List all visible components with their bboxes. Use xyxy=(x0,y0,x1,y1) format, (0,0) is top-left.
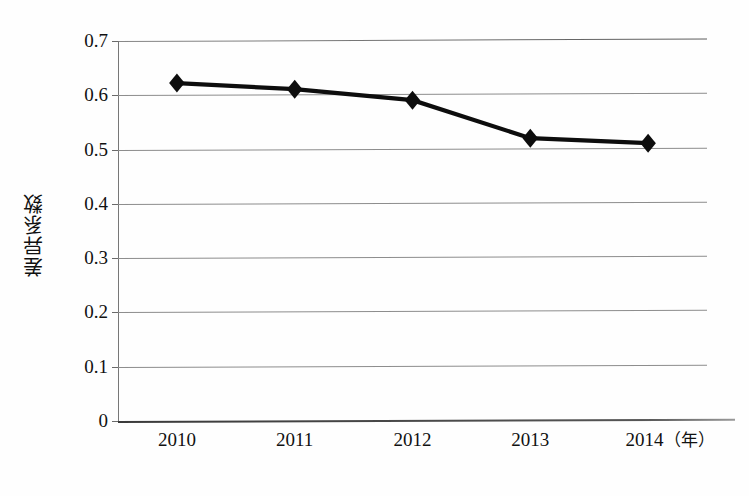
x-tick-label: 2013 xyxy=(511,429,549,451)
x-axis-tick-labels: 20102011201220132014（年） xyxy=(0,429,749,463)
data-point-marker xyxy=(405,91,421,110)
y-tick-label: 0.4 xyxy=(56,194,108,213)
x-axis-unit-label: （年） xyxy=(664,430,715,450)
x-tick-label: 2011 xyxy=(276,429,313,451)
data-point-marker xyxy=(287,80,303,99)
y-tick-label: 0.6 xyxy=(56,85,108,104)
plot-area xyxy=(118,41,707,421)
y-tick-label: 0.3 xyxy=(56,248,108,267)
chart-figure: 差异系数 00.10.20.30.40.50.60.7 201020112012… xyxy=(0,0,749,496)
y-tick-label: 0.7 xyxy=(56,31,108,50)
y-tick-label: 0 xyxy=(56,411,108,430)
x-tick-label: 2014（年） xyxy=(626,429,715,451)
series-line-diamond xyxy=(118,41,707,422)
y-tick-label: 0.1 xyxy=(56,357,108,376)
y-axis-tick-labels: 00.10.20.30.40.50.60.7 xyxy=(50,0,108,496)
y-axis-title: 差异系数 xyxy=(14,150,54,320)
x-tick-label: 2012 xyxy=(394,429,432,451)
data-point-marker xyxy=(523,129,539,148)
x-tick-label: 2010 xyxy=(158,429,196,451)
x-tick-label-year: 2014 xyxy=(626,429,664,450)
data-point-marker xyxy=(640,134,656,153)
y-tick-label: 0.5 xyxy=(56,140,108,159)
y-tick-label: 0.2 xyxy=(56,302,108,321)
data-point-marker xyxy=(169,74,185,93)
